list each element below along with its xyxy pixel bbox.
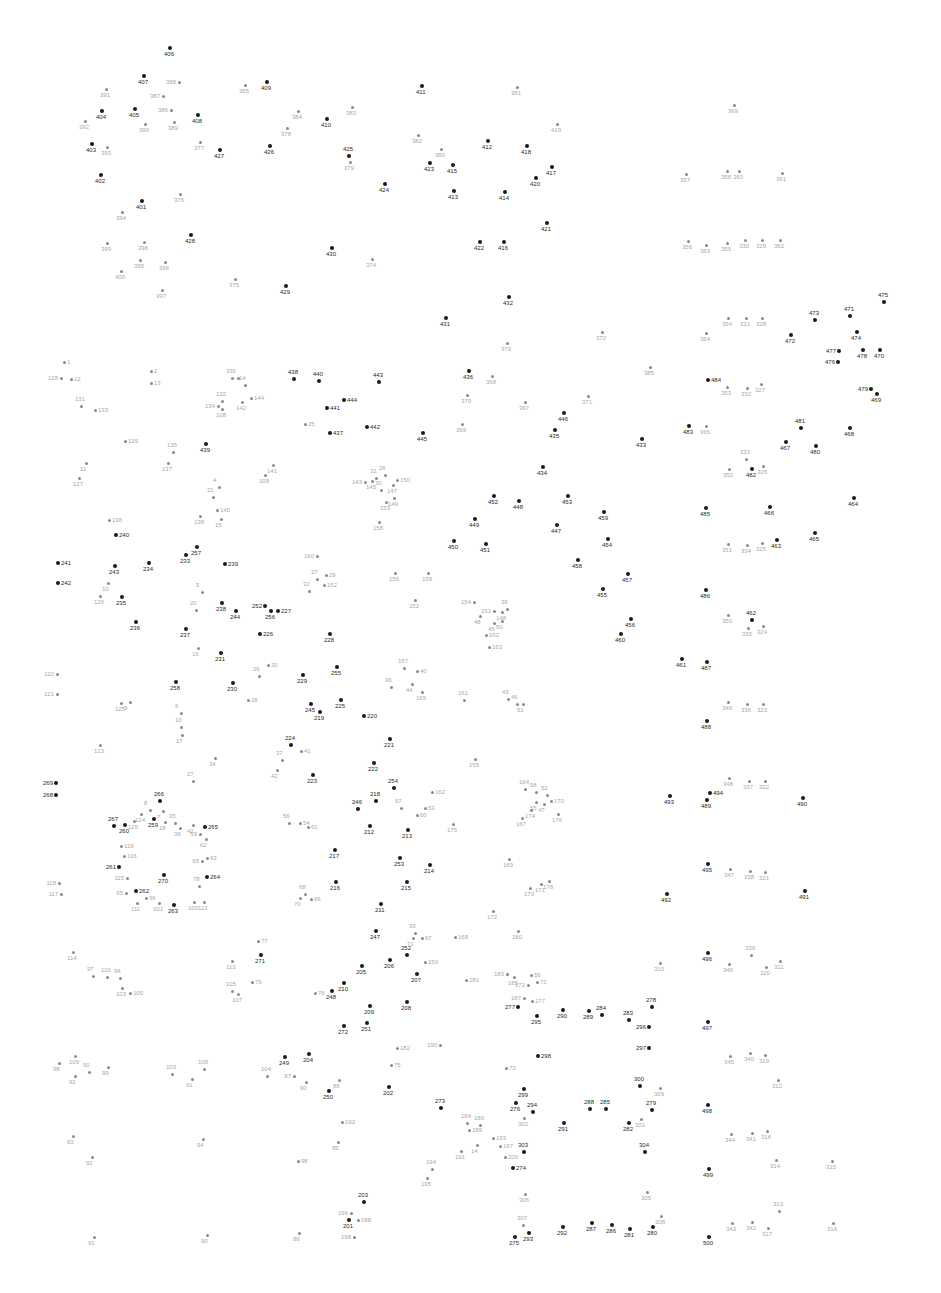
dot-number-label: 498 <box>702 1108 712 1114</box>
dot-marker-icon <box>374 799 378 803</box>
dot-number-label: 297 <box>636 1045 646 1051</box>
dot-number-label: 8 <box>144 800 147 806</box>
dot-number-label: 381 <box>511 90 521 96</box>
dot-marker-icon <box>205 875 209 879</box>
dot-marker-icon <box>219 651 223 655</box>
dot-number-label: 70 <box>294 901 301 907</box>
dot-number-label: 407 <box>138 79 148 85</box>
dot-number-label: 129 <box>128 438 138 444</box>
dot-marker-icon <box>668 794 672 798</box>
dot-number-label: 486 <box>700 593 710 599</box>
dot-number-label: 176 <box>552 817 562 823</box>
dot-number-label: 309 <box>654 1091 664 1097</box>
dot-number-label: 406 <box>164 51 174 57</box>
dot-number-label: 95 <box>116 890 123 896</box>
dot-number-label: 468 <box>844 431 854 437</box>
dot-marker-icon <box>92 975 95 978</box>
dot-marker-icon <box>685 173 688 176</box>
dot-number-label: 339 <box>745 945 755 951</box>
dot-number-label: 162 <box>489 632 499 638</box>
dot-number-label: 158 <box>373 525 383 531</box>
dot-number-label: 392 <box>79 124 89 130</box>
dot-number-label: 194 <box>426 1159 436 1165</box>
dot-number-label: 212 <box>364 829 374 835</box>
dot-number-label: 121 <box>44 691 54 697</box>
dot-number-label: 409 <box>261 85 271 91</box>
dot-number-label: 252 <box>252 603 262 609</box>
dot-marker-icon <box>750 954 753 957</box>
dot-marker-icon <box>706 1020 710 1024</box>
dot-number-label: 461 <box>676 662 686 668</box>
dot-number-label: 187 <box>511 995 521 1001</box>
dot-marker-icon <box>461 423 464 426</box>
dot-number-label: 265 <box>208 824 218 830</box>
dot-number-label: 243 <box>109 569 119 575</box>
dot-number-label: 183 <box>494 971 504 977</box>
dot-marker-icon <box>325 406 329 410</box>
dot-number-label: 14 <box>471 1148 478 1154</box>
dot-marker-icon <box>707 1235 711 1239</box>
dot-marker-icon <box>142 74 146 78</box>
dot-marker-icon <box>421 691 424 694</box>
dot-number-label: 133 <box>98 407 108 413</box>
dot-number-label: 200 <box>508 1154 518 1160</box>
dot-number-label: 271 <box>255 958 265 964</box>
dot-marker-icon <box>193 901 196 904</box>
dot-number-label: 425 <box>343 146 353 152</box>
dot-number-label: 473 <box>809 310 819 316</box>
dot-marker-icon <box>778 1210 781 1213</box>
dot-number-label: 98 <box>301 1158 308 1164</box>
dot-number-label: 136 <box>112 517 122 523</box>
dot-marker-icon <box>199 141 202 144</box>
dot-number-label: 4 <box>213 477 216 483</box>
dot-number-label: 278 <box>646 997 656 1003</box>
dot-number-label: 77 <box>261 938 268 944</box>
dot-number-label: 369 <box>456 427 466 433</box>
dot-marker-icon <box>74 1055 77 1058</box>
dot-marker-icon <box>504 1156 507 1159</box>
dot-number-label: 115 <box>114 875 124 881</box>
dot-number-label: 66 <box>314 896 321 902</box>
dot-marker-icon <box>371 480 374 483</box>
dot-number-label: 231 <box>215 656 225 662</box>
dot-number-label: 209 <box>364 1009 374 1015</box>
dot-marker-icon <box>832 1222 835 1225</box>
dot-number-label: 261 <box>106 864 116 870</box>
dot-marker-icon <box>374 929 378 933</box>
dot-number-label: 269 <box>43 780 53 786</box>
dot-number-label: 205 <box>356 969 366 975</box>
dot-number-label: 267 <box>108 816 118 822</box>
dot-marker-icon <box>587 395 590 398</box>
dot-marker-icon <box>123 823 127 827</box>
dot-number-label: 65 <box>192 858 199 864</box>
dot-number-label: 159 <box>428 959 438 965</box>
dot-marker-icon <box>350 1212 353 1215</box>
dot-number-label: 447 <box>551 528 561 534</box>
dot-number-label: 342 <box>746 1225 756 1231</box>
dot-number-label: 248 <box>326 994 336 1000</box>
dot-marker-icon <box>368 824 372 828</box>
dot-number-label: 25 <box>308 421 315 427</box>
dot-number-label: 164 <box>519 779 529 785</box>
dot-number-label: 282 <box>623 1126 633 1132</box>
dot-number-label: 76 <box>318 990 325 996</box>
dot-marker-icon <box>140 199 144 203</box>
dot-number-label: 91 <box>186 1082 193 1088</box>
dot-marker-icon <box>191 1078 194 1081</box>
dot-marker-icon <box>647 1046 651 1050</box>
dot-number-label: 398 <box>138 245 148 251</box>
dot-number-label: 379 <box>344 165 354 171</box>
dot-marker-icon <box>761 542 764 545</box>
dot-number-label: 52 <box>541 785 548 791</box>
dot-number-label: 280 <box>647 1230 657 1236</box>
dot-number-label: 120 <box>128 824 138 830</box>
dot-marker-icon <box>545 221 549 225</box>
dot-marker-icon <box>855 330 859 334</box>
dot-marker-icon <box>247 699 250 702</box>
dot-number-label: 122 <box>44 671 54 677</box>
dot-marker-icon <box>493 610 496 613</box>
dot-marker-icon <box>192 824 195 827</box>
dot-number-label: 100 <box>133 990 143 996</box>
dot-marker-icon <box>150 370 153 373</box>
dot-marker-icon <box>117 865 121 869</box>
